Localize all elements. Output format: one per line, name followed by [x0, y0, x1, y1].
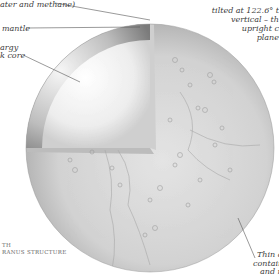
- caption-title: RANUS STRUCTURE: [2, 249, 66, 256]
- label-tilt-line1: tilted at 122.6° t: [212, 6, 279, 15]
- planet-cutaway-illustration: [0, 0, 279, 275]
- label-mantle: mantle: [2, 24, 30, 33]
- caption-line1: TH: [2, 242, 11, 249]
- label-tilt-line2: vertical – th: [231, 15, 279, 24]
- label-core-line2: k core: [0, 51, 25, 60]
- cutaway-core: [42, 40, 150, 148]
- label-tilt-line3: upright c: [242, 24, 279, 33]
- label-thin-atmosphere-line1: Thin atm: [257, 250, 279, 259]
- label-tilt-line4: plane: [257, 33, 279, 42]
- planet-sphere: [22, 20, 274, 272]
- label-thin-atmosphere-line3: and ni: [260, 267, 279, 275]
- label-atmosphere-composition: ater and methane): [0, 0, 75, 9]
